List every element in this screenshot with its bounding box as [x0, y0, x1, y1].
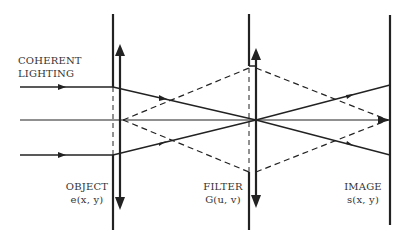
dashed-ray [256, 120, 388, 172]
filter-label: FILTER G(u, v) [200, 180, 246, 206]
filter-name: FILTER [200, 180, 246, 193]
ray-arrow-icon [159, 95, 167, 101]
image-label: IMAGE s(x, y) [340, 180, 386, 206]
source-label-line1: COHERENT [18, 54, 82, 67]
image-function: s(x, y) [340, 193, 386, 206]
ray-arrow-icon [346, 94, 354, 99]
ray-arrow-icon [58, 152, 66, 158]
dashed-ray [123, 120, 249, 172]
source-label-line2: LIGHTING [18, 67, 82, 80]
image-name: IMAGE [340, 180, 386, 193]
ray-arrow-icon [346, 141, 354, 146]
object-name: OBJECT [64, 180, 110, 193]
lens-1-arrow-up-icon [115, 44, 125, 56]
solid-ray [256, 85, 390, 120]
ray-arrow-icon [58, 84, 66, 90]
solid-ray [256, 120, 390, 155]
object-function: e(x, y) [64, 193, 110, 206]
lens-2-arrow-up-icon [251, 48, 261, 60]
filter-function: G(u, v) [200, 193, 246, 206]
lens-2-arrow-down-icon [251, 195, 261, 208]
source-label: COHERENT LIGHTING [18, 54, 82, 80]
lens-1-arrow-down-icon [115, 197, 125, 210]
object-label: OBJECT e(x, y) [64, 180, 110, 206]
ray-arrow-icon [378, 116, 390, 124]
dashed-ray [256, 68, 388, 120]
